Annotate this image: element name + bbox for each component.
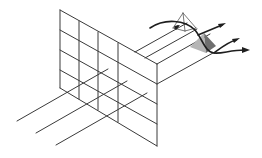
diagram-canvas [0, 0, 262, 158]
grid-panel [60, 10, 157, 146]
beam [135, 23, 213, 84]
receding-rays-front [17, 69, 147, 145]
diagram-svg [0, 0, 262, 158]
